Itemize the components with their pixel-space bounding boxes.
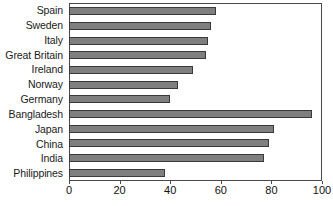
category-label: Ireland (0, 62, 66, 77)
value-axis: 020406080100 (69, 181, 322, 203)
category-label: Philippines (0, 166, 66, 181)
bar (69, 169, 165, 177)
bars-layer (70, 4, 321, 180)
bar-slot (70, 63, 321, 78)
category-label: Spain (0, 3, 66, 18)
category-label: Bangladesh (0, 107, 66, 122)
bar-slot (70, 33, 321, 48)
bar (69, 125, 274, 133)
x-tick-label: 40 (164, 185, 176, 196)
bar-slot (70, 121, 321, 136)
bar-slot (70, 48, 321, 63)
bar-slot (70, 4, 321, 19)
bar (69, 22, 211, 30)
bar-slot (70, 136, 321, 151)
bar-slot (70, 77, 321, 92)
bar (69, 154, 264, 162)
bar (69, 110, 312, 118)
category-label: Italy (0, 33, 66, 48)
bar (69, 66, 193, 74)
x-tick-label: 100 (313, 185, 331, 196)
bar (69, 139, 269, 147)
category-label: China (0, 136, 66, 151)
category-label: Germany (0, 92, 66, 107)
category-label: India (0, 151, 66, 166)
bar (69, 95, 170, 103)
bar-slot (70, 151, 321, 166)
bar-slot (70, 107, 321, 122)
bar (69, 51, 206, 59)
x-tick-label: 20 (113, 185, 125, 196)
plot-area (69, 3, 322, 181)
x-tick-label: 0 (66, 185, 72, 196)
bar (69, 7, 216, 15)
x-tick-label: 60 (215, 185, 227, 196)
bar (69, 37, 208, 45)
bar-chart: SpainSwedenItalyGreat BritainIrelandNorw… (0, 0, 333, 206)
x-tick-label: 80 (265, 185, 277, 196)
bar-slot (70, 92, 321, 107)
category-axis: SpainSwedenItalyGreat BritainIrelandNorw… (0, 3, 66, 181)
bar (69, 81, 178, 89)
category-label: Japan (0, 122, 66, 137)
bar-slot (70, 165, 321, 180)
category-label: Sweden (0, 18, 66, 33)
category-label: Norway (0, 77, 66, 92)
category-label: Great Britain (0, 47, 66, 62)
bar-slot (70, 19, 321, 34)
